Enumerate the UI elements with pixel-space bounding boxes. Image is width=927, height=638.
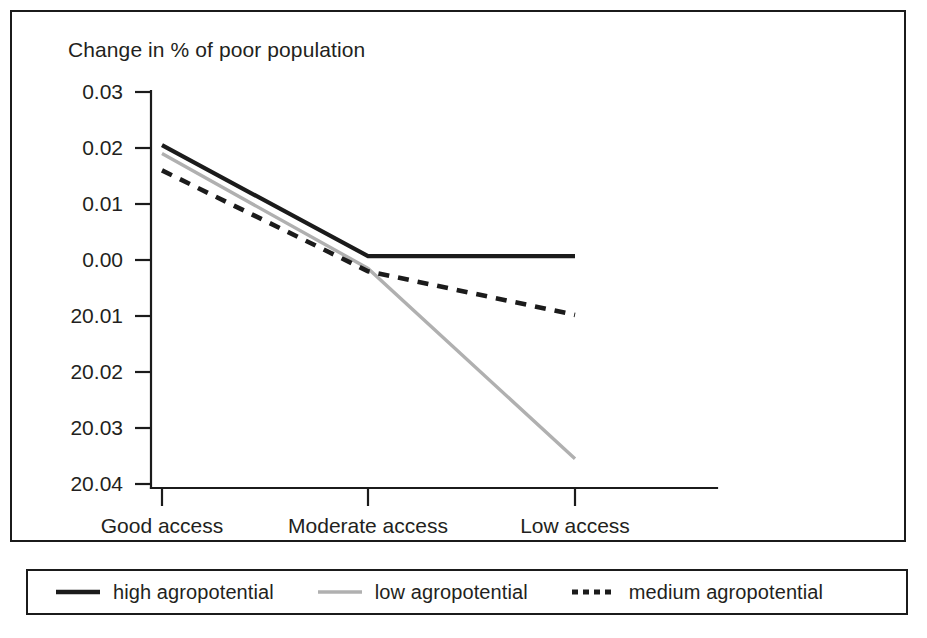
y-axis-tick-label: 0.02 [82, 136, 123, 159]
y-axis-tick-label: 20.01 [70, 304, 123, 327]
chart-figure: Change in % of poor population 0.030.020… [0, 0, 927, 638]
legend-item: low agropotential [318, 581, 528, 604]
y-axis-tick-label: 0.00 [82, 248, 123, 271]
legend-item-label: medium agropotential [629, 581, 823, 604]
y-axis-tick-mark-group [135, 92, 151, 484]
legend-item: medium agropotential [572, 581, 823, 604]
legend-item-label: low agropotential [375, 581, 528, 604]
x-axis-tick-label: Low access [520, 514, 630, 537]
y-axis-tick-label: 20.02 [70, 360, 123, 383]
x-axis-tick-label: Good access [101, 514, 224, 537]
y-axis-tick-label-group: 0.030.020.010.0020.0120.0220.0320.04 [70, 80, 123, 495]
y-axis-tick-label: 20.04 [70, 472, 123, 495]
data-series-group [162, 145, 575, 459]
x-axis-tick-mark-group [162, 488, 575, 506]
x-axis-tick-label-group: Good accessModerate accessLow access [101, 514, 630, 537]
chart-plot-svg: 0.030.020.010.0020.0120.0220.0320.04 Goo… [10, 10, 906, 542]
y-axis-tick-label: 0.01 [82, 192, 123, 215]
legend-swatch-low [318, 585, 362, 599]
chart-legend: high agropotentiallow agropotentialmediu… [26, 569, 908, 615]
legend-item-label: high agropotential [113, 581, 274, 604]
legend-swatch-high [56, 585, 100, 599]
y-axis-tick-label: 0.03 [82, 80, 123, 103]
legend-swatch-medium [572, 585, 616, 599]
x-axis-tick-label: Moderate access [288, 514, 448, 537]
legend-item: high agropotential [56, 581, 274, 604]
series-line-medium [162, 170, 575, 314]
y-axis-tick-label: 20.03 [70, 416, 123, 439]
